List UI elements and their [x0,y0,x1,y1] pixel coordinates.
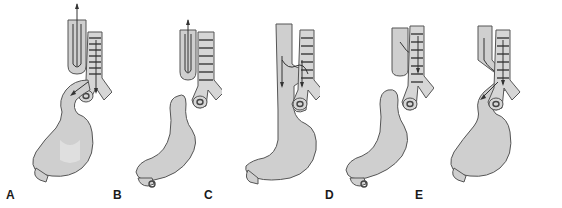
esophagus-stomach-illustration-e [412,0,562,208]
esophagus-stomach-illustration-a [0,0,112,208]
panel-label-c: C [204,188,213,202]
panel-label-b: B [113,188,122,202]
panel-label-a: A [6,188,15,202]
panel-c: C [200,0,320,208]
panel-a: A [0,0,112,208]
panel-e: E [412,0,562,208]
panel-label-d: D [325,188,334,202]
esophagus-stomach-illustration-c [200,0,320,208]
panel-label-e: E [415,188,423,202]
